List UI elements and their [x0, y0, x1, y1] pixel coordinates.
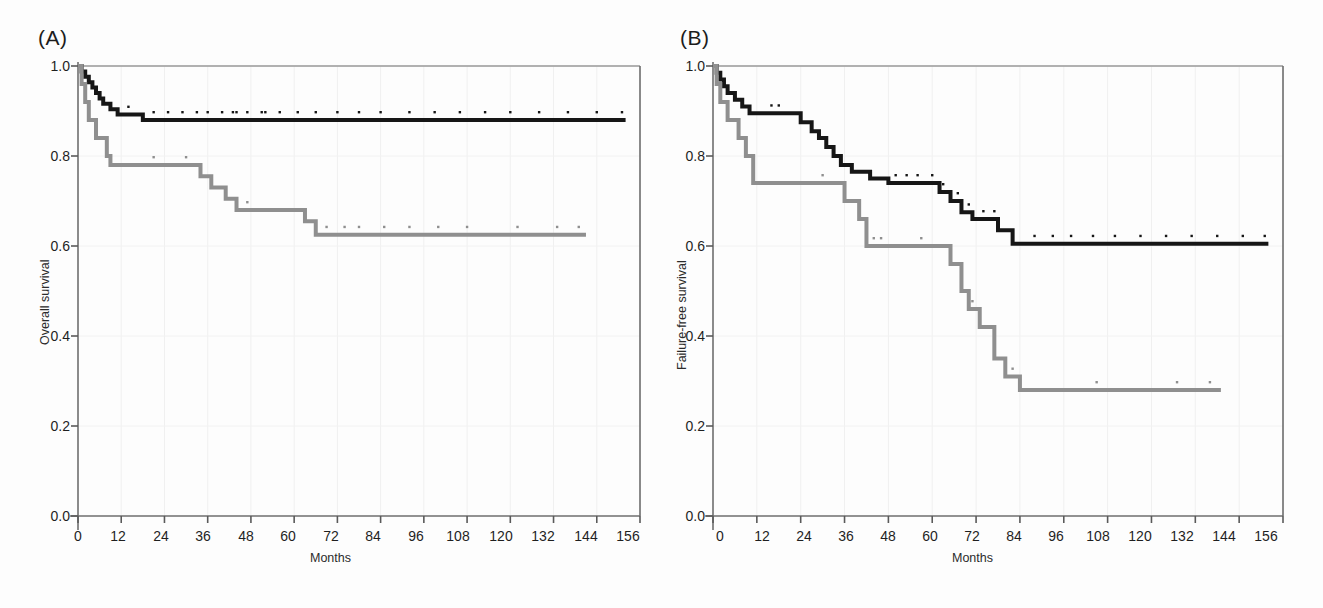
censoring-tick-mark: [315, 111, 317, 113]
panel-b: (B) Failure-free survival Months 1.0 0.8…: [655, 0, 1316, 608]
censoring-tick-mark: [433, 111, 435, 113]
censoring-tick-mark: [778, 104, 780, 106]
censoring-tick-mark: [1011, 368, 1013, 370]
censoring-tick-mark: [459, 111, 461, 113]
figure-container: (A) Overall survival Months 1.0 0.8 0.6 …: [0, 0, 1323, 608]
censoring-tick-mark: [556, 226, 558, 228]
censoring-tick-mark: [578, 226, 580, 228]
censoring-tick-mark: [358, 226, 360, 228]
censoring-tick-mark: [127, 106, 129, 108]
panel-a: (A) Overall survival Months 1.0 0.8 0.6 …: [0, 0, 661, 608]
censoring-tick-mark: [1092, 235, 1094, 237]
survival-curve-group-2: [78, 66, 586, 235]
censoring-tick-mark: [957, 192, 959, 194]
censoring-tick-mark: [596, 111, 598, 113]
panel-b-plot-area: [655, 0, 1316, 608]
panel-a-plot-area: [0, 0, 661, 608]
censoring-tick-mark: [279, 111, 281, 113]
censoring-tick-mark: [894, 174, 896, 176]
censoring-tick-mark: [152, 156, 154, 158]
censoring-tick-mark: [942, 183, 944, 185]
survival-curve-group-1: [78, 66, 626, 120]
censoring-tick-mark: [325, 226, 327, 228]
censoring-tick-mark: [466, 226, 468, 228]
censoring-tick-mark: [408, 226, 410, 228]
censoring-tick-mark: [538, 111, 540, 113]
censoring-tick-mark: [968, 203, 970, 205]
censoring-tick-mark: [221, 111, 223, 113]
censoring-tick-mark: [1033, 235, 1035, 237]
censoring-tick-mark: [152, 111, 154, 113]
censoring-tick-mark: [264, 111, 266, 113]
censoring-tick-mark: [235, 111, 237, 113]
censoring-tick-mark: [1264, 235, 1266, 237]
censoring-tick-mark: [1139, 235, 1141, 237]
censoring-tick-mark: [225, 190, 227, 192]
censoring-tick-mark: [246, 201, 248, 203]
censoring-tick-mark: [1114, 235, 1116, 237]
censoring-tick-mark: [297, 111, 299, 113]
censoring-tick-mark: [261, 111, 263, 113]
censoring-tick-mark: [916, 174, 918, 176]
censoring-tick-mark: [567, 111, 569, 113]
censoring-tick-mark: [167, 111, 169, 113]
censoring-tick-mark: [1052, 235, 1054, 237]
censoring-tick-mark: [343, 226, 345, 228]
censoring-tick-mark: [1095, 381, 1097, 383]
censoring-tick-mark: [905, 174, 907, 176]
censoring-tick-mark: [358, 111, 360, 113]
censoring-tick-mark: [1165, 235, 1167, 237]
censoring-tick-mark: [770, 104, 772, 106]
censoring-tick-mark: [1242, 235, 1244, 237]
censoring-tick-mark: [516, 226, 518, 228]
censoring-tick-mark: [181, 111, 183, 113]
censoring-tick-mark: [246, 111, 248, 113]
censoring-tick-mark: [336, 111, 338, 113]
censoring-tick-mark: [206, 111, 208, 113]
censoring-tick-mark: [971, 300, 973, 302]
censoring-tick-mark: [437, 226, 439, 228]
censoring-tick-mark: [484, 111, 486, 113]
censoring-tick-mark: [920, 237, 922, 239]
censoring-tick-mark: [383, 226, 385, 228]
censoring-tick-mark: [379, 111, 381, 113]
survival-curve-group-1: [713, 66, 1268, 244]
censoring-tick-mark: [880, 237, 882, 239]
censoring-tick-mark: [873, 237, 875, 239]
censoring-tick-mark: [993, 210, 995, 212]
censoring-tick-mark: [821, 174, 823, 176]
censoring-tick-mark: [1070, 235, 1072, 237]
censoring-tick-mark: [931, 174, 933, 176]
censoring-tick-mark: [509, 111, 511, 113]
censoring-tick-mark: [982, 210, 984, 212]
censoring-tick-mark: [232, 111, 234, 113]
censoring-tick-mark: [1190, 235, 1192, 237]
censoring-tick-mark: [196, 111, 198, 113]
censoring-tick-mark: [185, 156, 187, 158]
censoring-tick-mark: [621, 111, 623, 113]
censoring-tick-mark: [1216, 235, 1218, 237]
censoring-tick-mark: [1176, 381, 1178, 383]
censoring-tick-mark: [408, 111, 410, 113]
censoring-tick-mark: [1209, 381, 1211, 383]
